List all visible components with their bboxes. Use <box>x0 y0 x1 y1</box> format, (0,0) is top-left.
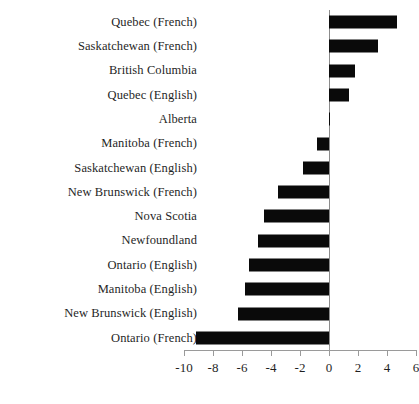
bar-row <box>0 204 419 228</box>
bar-row <box>0 59 419 83</box>
x-axis-tick <box>300 350 301 356</box>
x-axis-tick <box>329 346 330 356</box>
x-axis-tick <box>184 350 185 356</box>
bar <box>329 88 349 101</box>
bar <box>329 113 330 126</box>
x-axis-tick-label: -8 <box>208 361 219 374</box>
bar <box>238 307 329 320</box>
x-axis-tick <box>416 350 417 356</box>
bar-row <box>0 180 419 204</box>
bar-row <box>0 156 419 180</box>
bar <box>329 16 397 29</box>
x-axis-tick <box>213 350 214 356</box>
x-axis-tick-label: -10 <box>175 361 192 374</box>
bar <box>258 234 329 247</box>
x-axis-tick <box>358 350 359 356</box>
bar-chart: Quebec (French)Saskatchewan (French)Brit… <box>0 0 419 404</box>
x-axis-tick-label: 6 <box>413 361 419 374</box>
x-axis-tick-label: -2 <box>295 361 306 374</box>
bar <box>303 161 329 174</box>
x-axis-tick <box>242 350 243 356</box>
bar-row <box>0 229 419 253</box>
bar <box>264 210 329 223</box>
x-axis-tick-label: -4 <box>266 361 277 374</box>
x-axis: -10-8-6-4-20246 <box>0 350 419 404</box>
x-axis-tick-label: 4 <box>384 361 391 374</box>
x-axis-tick <box>271 350 272 356</box>
bar <box>329 64 355 77</box>
x-axis-tick-label: 2 <box>355 361 362 374</box>
x-axis-tick-label: -6 <box>237 361 248 374</box>
bar <box>278 186 329 199</box>
bar <box>317 137 329 150</box>
plot-area <box>0 10 419 350</box>
bar-row <box>0 131 419 155</box>
x-axis-tick-label: 0 <box>326 361 333 374</box>
bar-row <box>0 10 419 34</box>
bar-row <box>0 34 419 58</box>
bar-row <box>0 277 419 301</box>
bar-row <box>0 107 419 131</box>
bar-row <box>0 326 419 350</box>
bar-row <box>0 83 419 107</box>
bar <box>329 40 378 53</box>
bar <box>245 283 329 296</box>
bar-row <box>0 253 419 277</box>
bar-row <box>0 301 419 325</box>
bar <box>249 258 329 271</box>
bar <box>196 331 329 344</box>
x-axis-tick <box>387 350 388 356</box>
